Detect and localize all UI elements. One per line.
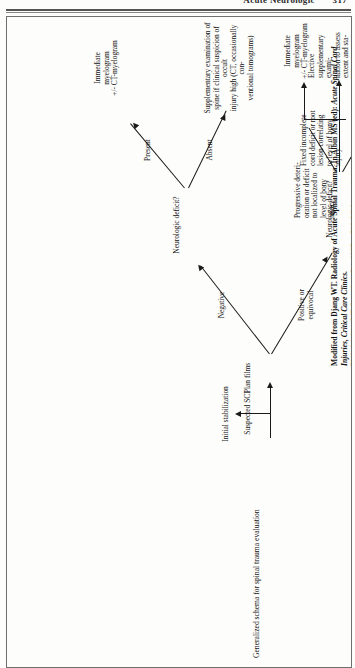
header-rule-thin bbox=[6, 12, 351, 13]
running-head-text: Acute Neurologic 317 bbox=[243, 0, 347, 5]
edge-label-positive-equivocal: Positive or equivocal bbox=[298, 274, 315, 336]
edge-start-to-plain-films bbox=[270, 386, 271, 438]
running-head: Acute Neurologic 317 bbox=[0, 0, 355, 14]
node-plain-films: Plan films bbox=[244, 352, 253, 404]
node-neurologic-deficit-upper: Neurologic deficit? bbox=[173, 186, 182, 264]
running-head-page-number: 317 bbox=[333, 0, 347, 5]
edge-label-absent: Absent bbox=[206, 126, 215, 174]
edge-present bbox=[130, 123, 185, 188]
running-head-section: Acute Neurologic bbox=[243, 0, 314, 5]
arrowhead-present bbox=[131, 121, 139, 129]
citation-line1-plain: Modified from Djang WT. Radiology of Acu… bbox=[330, 104, 339, 366]
edge-negative bbox=[200, 265, 270, 354]
node-immediate-myelogram-upper: Immediate myelogram +/- CT-myelogram bbox=[94, 26, 120, 110]
figure-citation: Modified from Djang WT. Radiology of Acu… bbox=[330, 22, 352, 366]
arrowhead-start-to-plain-films bbox=[267, 382, 273, 388]
edge-label-negative: Negative bbox=[218, 278, 227, 332]
edge-initial-stabilization bbox=[240, 413, 270, 414]
header-rule bbox=[6, 9, 351, 11]
edge-merge-to-immediate bbox=[304, 84, 305, 120]
arrowhead-immediate-lower bbox=[301, 82, 307, 88]
figure-frame: Generalized schema for spinal trauma eva… bbox=[6, 16, 352, 668]
node-initial-stabilization: Initial stabilization bbox=[222, 376, 231, 452]
figure-caption: Generalized schema for spinal trauma eva… bbox=[252, 448, 261, 658]
arrowhead-initial-stabilization bbox=[235, 411, 241, 417]
node-supplementary-examination: Supplementary examination of spine if cl… bbox=[204, 22, 256, 114]
flowchart-stage: Generalized schema for spinal trauma eva… bbox=[8, 18, 350, 666]
citation-line2: Philadelphia: WB Saunders Co., 1987, p 5… bbox=[350, 163, 352, 366]
node-immediate-myelogram-lower: Immediate myelogram +/- CT-myelogram bbox=[284, 22, 310, 80]
edge-label-present: Present bbox=[144, 126, 153, 174]
